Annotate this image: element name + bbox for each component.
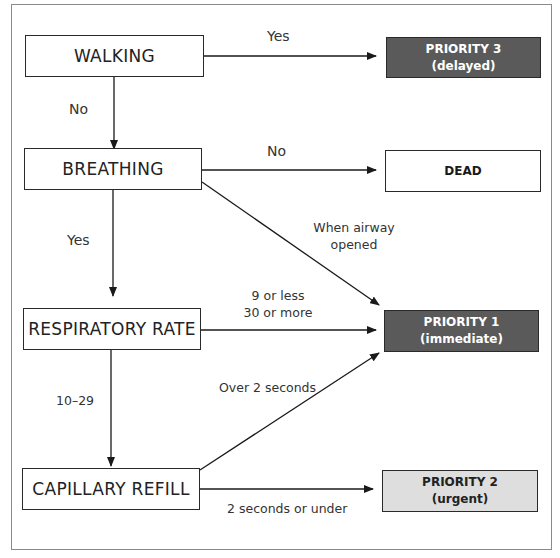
label-walking-yes: Yes [267, 28, 290, 45]
label-walking-no: No [69, 101, 88, 118]
label-breathing-airway-line2: opened [306, 236, 402, 253]
label-rr-normal: 10–29 [56, 392, 94, 409]
node-breathing-label: BREATHING [62, 159, 163, 179]
node-priority-3: PRIORITY 3 (delayed) [386, 37, 541, 78]
node-breathing: BREATHING [24, 148, 202, 190]
node-capillary-refill-label: CAPILLARY REFILL [32, 479, 189, 499]
node-priority-1: PRIORITY 1 (immediate) [384, 310, 539, 352]
node-priority-2: PRIORITY 2 (urgent) [382, 470, 538, 512]
node-walking: WALKING [25, 35, 204, 77]
label-rr-extreme-line1: 9 or less [238, 287, 318, 304]
label-rr-extreme: 9 or less 30 or more [238, 287, 318, 321]
label-cr-over: Over 2 seconds [219, 379, 316, 396]
label-breathing-airway: When airway opened [306, 219, 402, 253]
priority-3-title: PRIORITY 3 [426, 41, 502, 58]
priority-1-title: PRIORITY 1 [424, 314, 500, 331]
label-breathing-no: No [267, 143, 286, 160]
node-walking-label: WALKING [74, 46, 155, 66]
node-respiratory-rate-label: RESPIRATORY RATE [28, 319, 196, 339]
priority-2-subtitle: (urgent) [432, 491, 488, 508]
label-rr-extreme-line2: 30 or more [238, 304, 318, 321]
priority-3-subtitle: (delayed) [431, 58, 495, 75]
label-breathing-yes: Yes [67, 232, 90, 249]
node-dead: DEAD [385, 150, 541, 192]
label-cr-under: 2 seconds or under [227, 500, 347, 517]
arrow-cr-over [200, 353, 379, 470]
dead-title: DEAD [444, 163, 481, 180]
node-capillary-refill: CAPILLARY REFILL [22, 468, 200, 510]
label-breathing-airway-line1: When airway [306, 219, 402, 236]
priority-1-subtitle: (immediate) [420, 331, 503, 348]
node-respiratory-rate: RESPIRATORY RATE [23, 308, 201, 350]
priority-2-title: PRIORITY 2 [422, 474, 498, 491]
